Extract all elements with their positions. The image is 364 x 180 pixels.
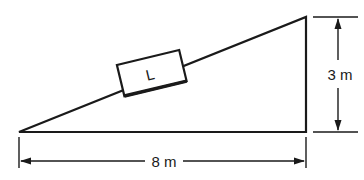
height-label: 3 m xyxy=(327,66,352,83)
arrow-right-icon xyxy=(294,158,305,165)
arrow-down-icon xyxy=(335,120,342,131)
arrow-left-icon xyxy=(20,158,31,165)
arrow-up-icon xyxy=(335,18,342,29)
base-label: 8 m xyxy=(151,153,176,170)
inclined-plane-diagram: L 3 m 8 m xyxy=(0,0,364,180)
